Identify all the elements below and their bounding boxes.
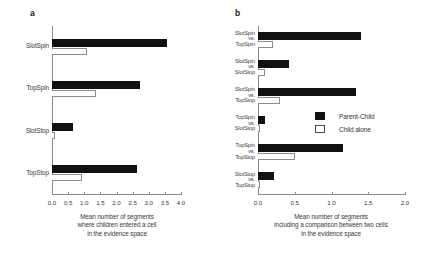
bar-parent-child: [258, 144, 343, 152]
x-tick-8: [181, 192, 182, 195]
x-tick-3: [368, 192, 369, 195]
x-tick-label-3: 1.5: [364, 199, 372, 206]
bar-parent-child: [258, 60, 289, 68]
x-tick-label-7: 3.5: [161, 199, 169, 206]
legend-label-child-alone: Child alone: [339, 126, 371, 133]
figure-container: a Mean number of segments where children…: [0, 0, 434, 258]
category-label: TopSpinvs.SlotStop: [235, 115, 255, 132]
x-tick-label-2: 1.0: [327, 199, 335, 206]
x-tick-1: [68, 192, 69, 195]
x-tick-label-4: 2.0: [401, 199, 409, 206]
panel-b-x-axis-title: Mean number of segments including a comp…: [233, 213, 429, 238]
panel-b-y-axis-line: [258, 26, 259, 195]
x-tick-3: [100, 192, 101, 195]
panel-b-plot-area: [258, 26, 405, 195]
bar-child-alone: [52, 132, 55, 139]
bar-child-alone: [52, 90, 96, 97]
bar-group: [258, 88, 405, 105]
panel-b-x-axis-title-line-2: including a comparison between two cells: [233, 221, 429, 229]
legend-item-parent-child[interactable]: Parent-Child: [315, 112, 374, 120]
category-label: SlotSpinvs.TopSpin: [235, 31, 255, 48]
x-tick-label-0: 0.0: [48, 199, 56, 206]
bar-parent-child: [52, 39, 167, 47]
category-label-line: TopSpin: [235, 42, 255, 48]
category-label: TopSpinvs.TopStop: [235, 143, 255, 160]
panel-b-x-axis-title-line-1: Mean number of segments: [233, 213, 429, 221]
x-tick-6: [149, 192, 150, 195]
x-tick-label-5: 2.5: [128, 199, 136, 206]
x-tick-0: [258, 192, 259, 195]
category-label: TopSpin: [27, 85, 49, 91]
filled-square-swatch-icon: [315, 112, 325, 120]
bar-child-alone: [258, 41, 273, 48]
category-label-line: SlotStop: [235, 126, 255, 132]
bar-group: [52, 123, 181, 140]
x-tick-label-3: 1.5: [96, 199, 104, 206]
bar-child-alone: [258, 125, 260, 132]
chart-legend: Parent-Child Child alone: [315, 112, 425, 138]
category-label-line: TopStop: [235, 98, 255, 104]
bar-parent-child: [52, 165, 137, 173]
panel-a: a Mean number of segments where children…: [0, 0, 217, 258]
x-tick-7: [165, 192, 166, 195]
bar-group: [52, 39, 181, 56]
category-label-line: SlotStop: [235, 70, 255, 76]
bar-child-alone: [52, 174, 82, 181]
x-tick-2: [84, 192, 85, 195]
panel-b: b Parent-Child Child alone Mean number o…: [217, 0, 434, 258]
bar-group: [258, 172, 405, 189]
panel-b-x-axis-title-line-3: in the evidence space: [233, 230, 429, 238]
category-label: SlotSpinvs.TopStop: [235, 87, 255, 104]
category-label: SlotSpin: [26, 43, 49, 49]
x-tick-label-1: 0.5: [291, 199, 299, 206]
legend-item-child-alone[interactable]: Child alone: [315, 125, 371, 133]
category-label: TopStop: [26, 170, 49, 176]
x-tick-label-0: 0.0: [254, 199, 262, 206]
bar-parent-child: [258, 32, 361, 40]
panel-a-letter: a: [30, 8, 35, 18]
bar-group: [52, 165, 181, 182]
bar-child-alone: [258, 181, 260, 188]
category-label-line: TopStop: [235, 183, 255, 189]
category-label: SlotStopvs.TopStop: [235, 172, 255, 189]
panel-a-x-axis-title: Mean number of segments where children e…: [44, 213, 190, 238]
category-label: SlotSpinvs.SlotStop: [235, 59, 255, 76]
x-tick-2: [332, 192, 333, 195]
bar-group: [258, 60, 405, 77]
panel-a-x-axis-title-line-1: Mean number of segments: [44, 213, 190, 221]
x-tick-label-8: 4.0: [177, 199, 185, 206]
bar-group: [52, 81, 181, 98]
open-square-swatch-icon: [315, 125, 325, 133]
x-tick-label-2: 1.0: [80, 199, 88, 206]
bar-child-alone: [258, 153, 295, 160]
bar-parent-child: [258, 116, 265, 124]
bar-parent-child: [258, 172, 274, 180]
bar-parent-child: [258, 88, 356, 96]
bar-child-alone: [258, 69, 265, 76]
legend-label-parent-child: Parent-Child: [339, 113, 374, 120]
bar-parent-child: [52, 123, 73, 131]
bar-child-alone: [258, 97, 280, 104]
x-tick-1: [295, 192, 296, 195]
x-tick-label-6: 3.0: [145, 199, 153, 206]
x-tick-0: [52, 192, 53, 195]
panel-a-x-axis-title-line-3: in the evidence space: [44, 230, 190, 238]
x-tick-label-1: 0.5: [64, 199, 72, 206]
x-tick-4: [405, 192, 406, 195]
x-tick-label-4: 2.0: [112, 199, 120, 206]
bar-parent-child: [52, 81, 140, 89]
category-label: SlotStop: [26, 128, 49, 134]
x-tick-4: [117, 192, 118, 195]
panel-b-letter: b: [235, 8, 240, 18]
x-tick-5: [133, 192, 134, 195]
panel-a-x-axis-title-line-2: where children entered a cell: [44, 221, 190, 229]
bar-group: [258, 32, 405, 49]
panel-a-plot-area: [52, 26, 181, 195]
bar-child-alone: [52, 48, 87, 55]
bar-group: [258, 144, 405, 161]
category-label-line: TopStop: [235, 155, 255, 161]
